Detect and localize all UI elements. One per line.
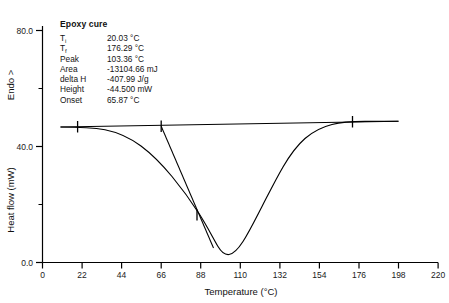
annotation-table: Ti 20.03 °C Tf 176.29 °C Peak 103.36 °C … bbox=[60, 33, 158, 105]
x-tick-label-198: 198 bbox=[391, 270, 405, 280]
annotation-block: Epoxy cure Ti 20.03 °C Tf 176.29 °C Peak… bbox=[60, 19, 210, 105]
dsc-thermogram-chart: 80.0 40.0 0.0 0 22 44 66 88 110 132 154 … bbox=[0, 0, 449, 303]
annotation-value-peak: 103.36 °C bbox=[107, 54, 158, 64]
curve-markers bbox=[78, 116, 353, 221]
annotation-title: Epoxy cure bbox=[60, 19, 210, 29]
annotation-key-tf-subscript: f bbox=[65, 48, 67, 54]
annotation-value-ti: 20.03 °C bbox=[107, 33, 158, 43]
annotation-value-height: -44.500 mW bbox=[107, 84, 158, 94]
y-axis-secondary-title: Endo > bbox=[5, 69, 16, 100]
annotation-key-area: Area bbox=[60, 64, 107, 74]
y-axis-major-ticks bbox=[36, 31, 43, 263]
annotation-row-height: Height -44.500 mW bbox=[60, 84, 158, 94]
y-tick-label-40: 40.0 bbox=[16, 142, 33, 152]
y-tick-label-0: 0.0 bbox=[21, 258, 33, 268]
annotation-value-area: -13104.66 mJ bbox=[107, 64, 158, 74]
annotation-key-tf: Tf bbox=[60, 43, 107, 53]
annotation-key-onset: Onset bbox=[60, 95, 107, 105]
x-tick-label-132: 132 bbox=[273, 270, 287, 280]
x-axis-title: Temperature (°C) bbox=[205, 286, 278, 297]
x-tick-label-220: 220 bbox=[431, 270, 445, 280]
annotation-value-delta-h: -407.99 J/g bbox=[107, 74, 158, 84]
x-tick-label-88: 88 bbox=[196, 270, 206, 280]
annotation-row-peak: Peak 103.36 °C bbox=[60, 54, 158, 64]
x-tick-label-154: 154 bbox=[312, 270, 326, 280]
x-tick-label-176: 176 bbox=[352, 270, 366, 280]
annotation-row-onset: Onset 65.87 °C bbox=[60, 95, 158, 105]
x-tick-label-66: 66 bbox=[156, 270, 166, 280]
x-axis-ticks bbox=[43, 263, 439, 269]
heat-flow-curve bbox=[61, 121, 399, 254]
x-tick-label-44: 44 bbox=[117, 270, 127, 280]
y-tick-label-80: 80.0 bbox=[16, 26, 33, 36]
annotation-row-tf: Tf 176.29 °C bbox=[60, 43, 158, 53]
annotation-row-area: Area -13104.66 mJ bbox=[60, 64, 158, 74]
annotation-key-peak: Peak bbox=[60, 54, 107, 64]
x-tick-label-22: 22 bbox=[77, 270, 87, 280]
onset-tangent-line bbox=[161, 126, 213, 248]
x-tick-label-0: 0 bbox=[40, 270, 45, 280]
annotation-key-ti: Ti bbox=[60, 33, 107, 43]
annotation-row-delta-h: delta H -407.99 J/g bbox=[60, 74, 158, 84]
annotation-key-height: Height bbox=[60, 84, 107, 94]
annotation-row-ti: Ti 20.03 °C bbox=[60, 33, 158, 43]
annotation-value-onset: 65.87 °C bbox=[107, 95, 158, 105]
annotation-value-tf: 176.29 °C bbox=[107, 43, 158, 53]
annotation-key-delta-h: delta H bbox=[60, 74, 107, 84]
x-tick-label-110: 110 bbox=[234, 270, 248, 280]
y-axis-title: Heat flow (mW) bbox=[5, 167, 16, 232]
